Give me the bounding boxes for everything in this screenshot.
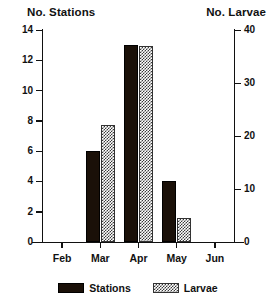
hatched-swatch bbox=[153, 283, 179, 293]
right-tick-label: 20 bbox=[244, 131, 276, 141]
legend-item-stations: Stations bbox=[58, 282, 130, 294]
left-tick-mark bbox=[36, 151, 42, 152]
bars-layer bbox=[43, 30, 234, 242]
left-tick-label: 2 bbox=[0, 207, 33, 217]
right-tick-mark bbox=[235, 30, 241, 31]
right-tick-label: 0 bbox=[244, 237, 276, 247]
left-tick-label: 10 bbox=[0, 86, 33, 96]
left-tick-label: 6 bbox=[0, 146, 33, 156]
right-tick-label: 10 bbox=[244, 184, 276, 194]
bar-stations-apr bbox=[124, 45, 138, 242]
left-tick-label: 4 bbox=[0, 176, 33, 186]
right-tick-mark bbox=[235, 136, 241, 137]
x-tick-mark bbox=[214, 243, 215, 248]
left-tick-label: 8 bbox=[0, 116, 33, 126]
legend-item-larvae: Larvae bbox=[153, 282, 218, 294]
right-tick-mark bbox=[235, 83, 241, 84]
left-tick-mark bbox=[36, 181, 42, 182]
right-tick-mark bbox=[235, 242, 241, 243]
chart-container: No. Stations No. Larvae 02468101214 0102… bbox=[0, 0, 276, 306]
left-tick-label: 14 bbox=[0, 25, 33, 35]
left-tick-mark bbox=[36, 120, 42, 121]
x-tick-mark bbox=[176, 243, 177, 248]
left-tick-mark bbox=[36, 242, 42, 243]
left-tick-label: 12 bbox=[0, 55, 33, 65]
x-tick-mark bbox=[138, 243, 139, 248]
x-tick-label-jun: Jun bbox=[193, 252, 237, 264]
legend-label-stations: Stations bbox=[89, 282, 130, 294]
left-tick-mark bbox=[36, 211, 42, 212]
right-axis-caption: No. Larvae bbox=[206, 6, 266, 18]
left-tick-mark bbox=[36, 60, 42, 61]
bar-stations-mar bbox=[86, 151, 100, 242]
x-tick-mark bbox=[100, 243, 101, 248]
right-tick-label: 30 bbox=[244, 78, 276, 88]
bar-stations-may bbox=[162, 181, 176, 242]
left-tick-label: 0 bbox=[0, 237, 33, 247]
left-tick-mark bbox=[36, 90, 42, 91]
x-tick-mark bbox=[61, 243, 62, 248]
bar-larvae-may bbox=[177, 218, 191, 242]
bar-larvae-mar bbox=[101, 125, 115, 242]
bar-larvae-apr bbox=[139, 46, 153, 242]
chart-legend: Stations Larvae bbox=[0, 282, 276, 294]
left-tick-mark bbox=[36, 30, 42, 31]
legend-label-larvae: Larvae bbox=[184, 282, 218, 294]
right-tick-mark bbox=[235, 189, 241, 190]
solid-black-swatch bbox=[58, 283, 84, 293]
right-tick-label: 40 bbox=[244, 25, 276, 35]
left-axis-caption: No. Stations bbox=[27, 6, 95, 18]
